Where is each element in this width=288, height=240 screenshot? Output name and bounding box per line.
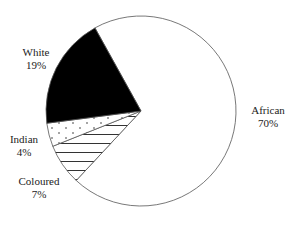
label-african-pct: 70%	[244, 117, 288, 130]
label-white-name: White	[16, 46, 56, 59]
label-indian: Indian 4%	[4, 133, 44, 159]
label-coloured: Coloured 7%	[14, 175, 64, 201]
label-african: African 70%	[244, 104, 288, 130]
label-white: White 19%	[16, 46, 56, 72]
label-coloured-name: Coloured	[14, 175, 64, 188]
label-indian-pct: 4%	[4, 146, 44, 159]
label-white-pct: 19%	[16, 59, 56, 72]
label-indian-name: Indian	[4, 133, 44, 146]
label-coloured-pct: 7%	[14, 188, 64, 201]
label-african-name: African	[244, 104, 288, 117]
